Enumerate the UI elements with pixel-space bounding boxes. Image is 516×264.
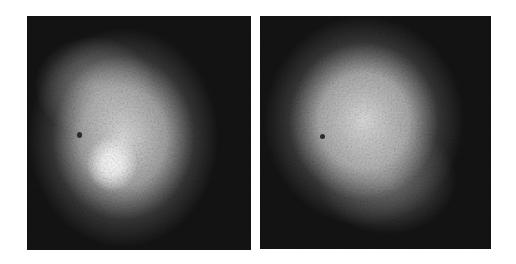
noise-texture [260,16,491,249]
noise-texture [27,16,251,250]
dark-spot [77,132,82,138]
dark-spot [320,134,325,139]
right-scan-image [260,16,491,249]
left-scan-image [27,16,251,250]
